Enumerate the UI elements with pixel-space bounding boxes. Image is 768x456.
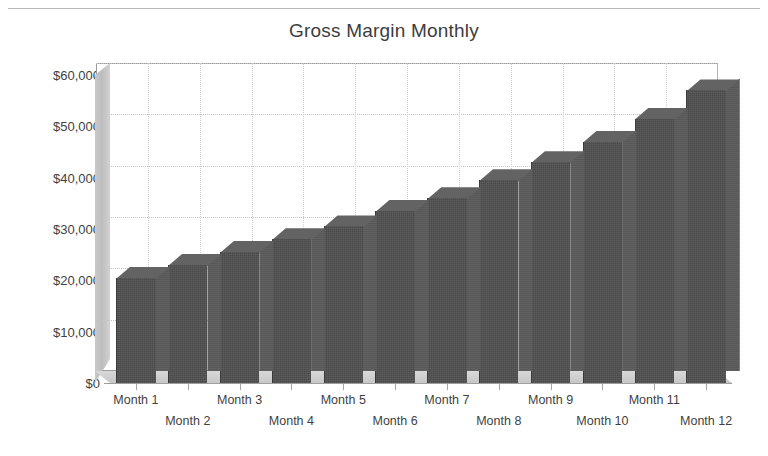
bar-column[interactable] [324, 226, 363, 383]
chart-title: Gross Margin Monthly [0, 20, 768, 42]
x-axis-tick-mark [395, 384, 396, 390]
x-axis-tick-mark [499, 384, 500, 390]
x-axis-tick-label: Month 5 [321, 393, 366, 407]
bar-front-face [479, 180, 518, 383]
x-axis-tick-label: Month 10 [576, 414, 628, 428]
bar-column[interactable] [583, 142, 622, 383]
bar-side-face [311, 227, 325, 371]
bar-side-face [467, 186, 481, 371]
bar-side-face [363, 214, 377, 371]
x-axis-tick-label: Month 2 [165, 414, 210, 428]
bar-column[interactable] [635, 119, 674, 383]
bar-front-face [116, 278, 155, 383]
x-axis-tick-mark [136, 384, 137, 390]
y-axis-tick-label: $20,000 [0, 273, 100, 288]
y-axis-tick-label: $60,000 [0, 68, 100, 83]
bar-front-face [583, 142, 622, 383]
bar-front-face [686, 90, 725, 383]
bar-column[interactable] [375, 211, 414, 383]
x-axis-tick-label: Month 12 [680, 414, 732, 428]
bar-column[interactable] [168, 265, 207, 383]
bar-column[interactable] [116, 278, 155, 383]
bar-front-face [531, 162, 570, 383]
x-axis-tick-label: Month 4 [269, 414, 314, 428]
x-axis-tick-mark [706, 384, 707, 390]
x-axis-tick-label: Month 9 [528, 393, 573, 407]
bar-side-face [674, 107, 688, 371]
y-axis-tick-label: $0 [0, 376, 100, 391]
scan-rule-divider [8, 8, 760, 9]
y-axis-tick-label: $40,000 [0, 170, 100, 185]
bar-column[interactable] [272, 239, 311, 383]
bar-side-face [156, 266, 170, 371]
y-axis-tick-label: $50,000 [0, 119, 100, 134]
x-axis-tick-mark [551, 384, 552, 390]
bar-side-face [570, 150, 584, 371]
plot-area [110, 75, 732, 383]
x-axis-tick-label: Month 6 [372, 414, 417, 428]
y-axis-tick-label: $30,000 [0, 222, 100, 237]
bar-column[interactable] [220, 252, 259, 383]
y-axis-tick-label: $10,000 [0, 324, 100, 339]
bar-side-face [622, 130, 636, 371]
x-axis-tick-mark [343, 384, 344, 390]
x-axis-tick-label: Month 11 [629, 393, 680, 407]
x-axis-tick-mark [188, 384, 189, 390]
plot-left-wall [95, 63, 110, 383]
bar-side-face [415, 199, 429, 371]
bar-front-face [168, 265, 207, 383]
bar-column[interactable] [427, 198, 466, 383]
x-axis-tick-mark [447, 384, 448, 390]
bar-front-face [635, 119, 674, 383]
bar-front-face [220, 252, 259, 383]
x-axis-tick-mark [291, 384, 292, 390]
bar-column[interactable] [531, 162, 570, 383]
bar-side-face [259, 240, 273, 371]
bar-side-face [518, 168, 532, 371]
x-axis-tick-mark [602, 384, 603, 390]
x-axis-tick-label: Month 1 [113, 393, 158, 407]
x-axis-tick-label: Month 7 [424, 393, 469, 407]
bar-front-face [427, 198, 466, 383]
x-axis-tick-mark [240, 384, 241, 390]
bar-front-face [324, 226, 363, 383]
x-axis-tick-label: Month 8 [476, 414, 521, 428]
bar-side-face [726, 78, 740, 371]
bar-column[interactable] [479, 180, 518, 383]
bar-front-face [272, 239, 311, 383]
chart-root: Gross Margin Monthly $0$10,000$20,000$30… [0, 0, 768, 456]
plot-baseline [110, 383, 732, 384]
bar-front-face [375, 211, 414, 383]
bar-column[interactable] [686, 90, 725, 383]
x-axis-tick-mark [654, 384, 655, 390]
x-axis-tick-label: Month 3 [217, 393, 262, 407]
bar-side-face [207, 253, 221, 371]
